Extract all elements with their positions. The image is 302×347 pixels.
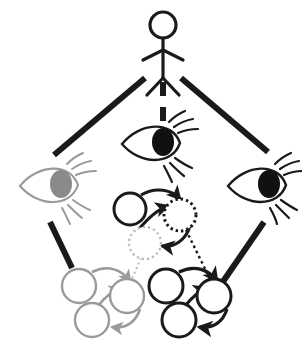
node-bl-2 [110,279,144,313]
node-br-1 [149,269,183,303]
node-bl-1 [62,269,96,303]
eye-left-pupil [50,170,72,198]
eye-center-pupil [152,128,174,156]
node-mid-solid-black [114,193,146,225]
diagram-root [0,0,302,347]
node-bl-3 [75,303,109,337]
node-br-2 [197,279,231,313]
node-mid-black-dotted [164,199,196,231]
node-mid-gray-dotted [129,227,161,259]
node-br-3 [162,303,196,337]
eye-right-pupil [258,170,280,198]
observer-network-diagram [0,0,302,347]
